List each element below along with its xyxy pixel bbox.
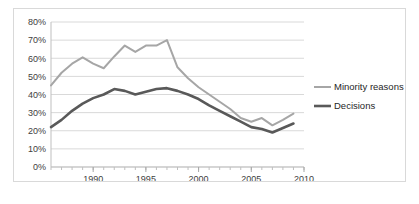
x-axis-tick-label: 2000: [189, 174, 209, 181]
y-axis-tick-label: 30%: [28, 108, 46, 118]
y-axis-tick-label: 80%: [28, 17, 46, 27]
y-axis-tick-label: 10%: [28, 144, 46, 154]
y-axis-tick-label: 40%: [28, 90, 46, 100]
y-axis-tick-label: 50%: [28, 72, 46, 82]
x-axis-tick-label: 1995: [136, 174, 156, 181]
data-series-group: [51, 40, 293, 132]
chart-legend: Minority reasonsDecisions: [314, 81, 404, 111]
y-axis-tick-label: 20%: [28, 126, 46, 136]
legend-item-label: Minority reasons: [334, 81, 404, 92]
x-axis-tick-labels: 19901995200020052010: [83, 174, 314, 181]
line-chart: 0%10%20%30%40%50%60%70%80% 1990199520002…: [14, 9, 405, 181]
x-axis-tick-label: 1990: [83, 174, 103, 181]
y-axis-tick-label: 70%: [28, 35, 46, 45]
chart-container: 0%10%20%30%40%50%60%70%80% 1990199520002…: [13, 8, 406, 182]
x-axis-tick-label: 2005: [241, 174, 261, 181]
y-axis-tick-label: 60%: [28, 54, 46, 64]
gridlines: [51, 22, 304, 167]
y-axis-tick-labels: 0%10%20%30%40%50%60%70%80%: [28, 17, 46, 172]
y-axis-tick-label: 0%: [33, 162, 46, 172]
legend-item-label: Decisions: [334, 100, 375, 111]
x-axis-tick-label: 2010: [294, 174, 314, 181]
